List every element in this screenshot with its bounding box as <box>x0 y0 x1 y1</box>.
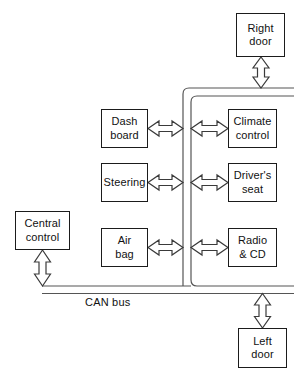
node-steering[interactable]: Steering <box>101 163 148 202</box>
arrow-bus-to-drivers-seat <box>191 175 228 190</box>
arrow-central-control-to-bus <box>35 250 51 286</box>
node-central-control[interactable]: Central control <box>15 211 70 250</box>
node-dash-board-line2: board <box>110 129 139 143</box>
node-air-bag-line1: Air <box>118 234 132 248</box>
node-right-door[interactable]: Right door <box>236 13 285 57</box>
node-climate-control-line2: control <box>236 129 270 143</box>
node-dash-board[interactable]: Dash board <box>101 109 148 148</box>
node-radio-cd[interactable]: Radio & CD <box>228 228 277 267</box>
node-central-control-line2: control <box>26 231 60 245</box>
node-drivers-seat-line2: seat <box>242 183 263 197</box>
node-left-door[interactable]: Left door <box>238 328 287 368</box>
node-drivers-seat-line1: Driver's <box>234 169 272 183</box>
node-steering-line1: Steering <box>104 176 146 190</box>
node-radio-cd-line1: Radio <box>238 234 267 248</box>
node-drivers-seat[interactable]: Driver's seat <box>228 163 277 202</box>
arrow-steering-to-bus <box>148 175 183 190</box>
node-right-door-line2: door <box>249 35 271 49</box>
node-left-door-line2: door <box>251 348 273 362</box>
arrow-right-door-to-bus <box>253 57 269 88</box>
arrow-bus-to-left-door <box>255 294 271 329</box>
node-air-bag-line2: bag <box>115 248 134 262</box>
arrow-bus-to-radio-cd <box>191 240 228 255</box>
node-climate-control[interactable]: Climate control <box>228 109 277 148</box>
node-climate-control-line1: Climate <box>234 115 272 129</box>
node-left-door-line1: Left <box>253 335 272 349</box>
can-bus-diagram: Right door Dash board Climate control St… <box>0 0 294 374</box>
arrow-bus-to-climate-control <box>191 121 228 136</box>
can-bus-label: CAN bus <box>85 296 130 308</box>
node-radio-cd-line2: & CD <box>239 248 266 262</box>
node-right-door-line1: Right <box>247 22 273 36</box>
arrow-air-bag-to-bus <box>148 240 183 255</box>
node-dash-board-line1: Dash <box>111 115 137 129</box>
node-central-control-line1: Central <box>24 217 60 231</box>
node-air-bag[interactable]: Air bag <box>101 228 148 267</box>
arrow-dash-board-to-bus <box>148 121 183 136</box>
